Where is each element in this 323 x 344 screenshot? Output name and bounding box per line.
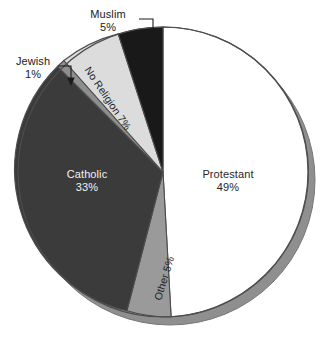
callout-jewish-name: Jewish <box>2 55 64 68</box>
slice-label-protestant-name: Protestant <box>178 168 278 181</box>
callout-label-jewish: Jewish 1% <box>2 55 64 81</box>
slice-label-protestant: Protestant 49% <box>178 168 278 194</box>
slice-label-protestant-value: 49% <box>178 181 278 194</box>
callout-muslim-name: Muslim <box>77 8 139 21</box>
slice-label-catholic-value: 33% <box>37 181 137 194</box>
callout-muslim-value: 5% <box>77 21 139 34</box>
callout-jewish-value: 1% <box>2 68 64 81</box>
callout-label-muslim: Muslim 5% <box>77 8 139 34</box>
slice-label-catholic-name: Catholic <box>37 168 137 181</box>
slice-label-catholic: Catholic 33% <box>37 168 137 194</box>
pie-chart: Muslim 5% Jewish 1% Protestant 49% Catho… <box>0 0 323 344</box>
